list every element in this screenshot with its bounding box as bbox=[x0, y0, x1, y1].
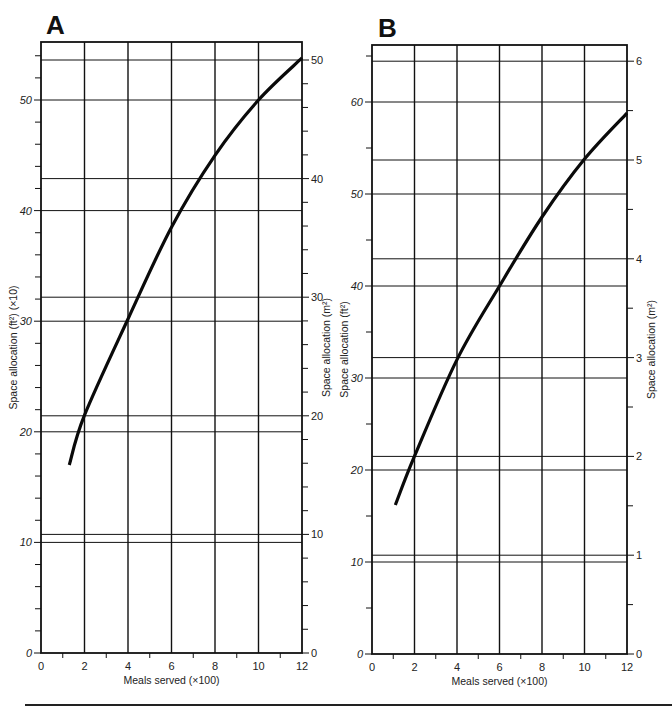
y-tick-label-right: 40 bbox=[311, 173, 323, 185]
x-tick-label: 0 bbox=[369, 661, 375, 673]
y-tick-label-left: 50 bbox=[20, 94, 33, 106]
y-tick-label-right: 20 bbox=[311, 410, 323, 422]
panel-letter: A bbox=[46, 10, 65, 40]
y-tick-label-right: 6 bbox=[636, 55, 642, 67]
x-tick-label: 2 bbox=[411, 661, 417, 673]
y-tick-label-left: 50 bbox=[351, 188, 364, 200]
y-tick-label-right: 3 bbox=[636, 352, 642, 364]
x-tick-label: 8 bbox=[539, 661, 545, 673]
x-tick-label: 4 bbox=[125, 660, 131, 672]
panel-letter: B bbox=[378, 13, 397, 43]
x-tick-label: 6 bbox=[496, 661, 502, 673]
x-tick-label: 12 bbox=[621, 661, 633, 673]
data-curve bbox=[395, 113, 627, 505]
y-tick-label-right: 2 bbox=[636, 450, 642, 462]
y-axis-title-right: Space allocation (m²) bbox=[320, 298, 332, 397]
x-tick-label: 4 bbox=[454, 661, 460, 673]
chart-panel-b: B024681012Meals served (×100)01020304050… bbox=[338, 13, 657, 687]
y-tick-label-right: 4 bbox=[636, 253, 642, 265]
y-tick-label-left: 20 bbox=[350, 464, 364, 476]
y-tick-label-right: 5 bbox=[636, 154, 642, 166]
y-tick-label-left: 30 bbox=[20, 315, 33, 327]
data-curve bbox=[69, 58, 302, 465]
x-axis-title: Meals served (×100) bbox=[451, 675, 547, 687]
y-tick-label-right: 50 bbox=[311, 54, 323, 66]
y-axis-title-left: Space allocation (ft²) (×10) bbox=[7, 285, 19, 409]
y-tick-label-right: 0 bbox=[311, 647, 317, 659]
x-tick-label: 0 bbox=[38, 660, 44, 672]
y-tick-label-left: 20 bbox=[19, 426, 33, 438]
y-axis-title-right: Space allocation (m²) bbox=[645, 300, 657, 399]
y-tick-label-right: 0 bbox=[636, 648, 642, 660]
y-tick-label-left: 0 bbox=[26, 647, 33, 659]
x-tick-label: 10 bbox=[252, 660, 264, 672]
x-tick-label: 6 bbox=[168, 660, 174, 672]
x-axis-title: Meals served (×100) bbox=[123, 674, 219, 686]
x-tick-label: 2 bbox=[81, 660, 87, 672]
y-tick-label-left: 60 bbox=[351, 96, 364, 108]
y-tick-label-left: 10 bbox=[351, 556, 364, 568]
y-tick-label-right: 10 bbox=[311, 528, 323, 540]
x-tick-label: 12 bbox=[296, 660, 308, 672]
figure: A024681012Meals served (×100)01020304050… bbox=[0, 0, 672, 707]
y-tick-label-left: 0 bbox=[357, 648, 364, 660]
x-tick-label: 8 bbox=[212, 660, 218, 672]
y-axis-title-left: Space allocation (ft²) bbox=[338, 301, 350, 397]
x-tick-label: 10 bbox=[578, 661, 590, 673]
y-tick-label-left: 40 bbox=[351, 280, 364, 292]
y-tick-label-left: 30 bbox=[351, 372, 364, 384]
chart-panel-a: A024681012Meals served (×100)01020304050… bbox=[7, 10, 332, 686]
y-tick-label-left: 40 bbox=[20, 205, 33, 217]
y-tick-label-right: 1 bbox=[636, 549, 642, 561]
y-tick-label-left: 10 bbox=[20, 536, 33, 548]
